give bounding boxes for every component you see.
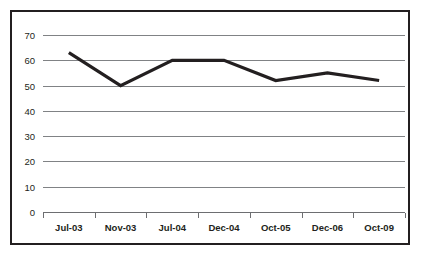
y-axis-tick-label: 20 xyxy=(24,156,35,167)
x-axis-tick-label: Jul-04 xyxy=(159,222,187,233)
x-axis-tick-label: Nov-03 xyxy=(105,222,137,233)
y-axis-tick-label: 30 xyxy=(24,131,35,142)
data-series-line xyxy=(69,53,379,86)
y-axis-tick-label: 40 xyxy=(24,106,35,117)
x-axis-tick-label: Dec-06 xyxy=(312,222,343,233)
x-axis-tick-label: Jul-03 xyxy=(55,222,82,233)
y-axis-tick-label: 10 xyxy=(24,182,35,193)
x-axis-tick-label: Oct-09 xyxy=(364,222,394,233)
y-axis-tick-label: 0 xyxy=(30,207,35,218)
y-axis-tick-label: 70 xyxy=(24,30,35,41)
chart-canvas: 010203040506070Jul-03Nov-03Jul-04Dec-04O… xyxy=(12,12,408,243)
y-axis-tick-label: 60 xyxy=(24,55,35,66)
line-chart: 010203040506070Jul-03Nov-03Jul-04Dec-04O… xyxy=(12,12,408,243)
y-axis-tick-label: 50 xyxy=(24,81,35,92)
chart-frame: 010203040506070Jul-03Nov-03Jul-04Dec-04O… xyxy=(10,10,410,245)
x-axis-tick-label: Oct-05 xyxy=(261,222,291,233)
x-axis-tick-label: Dec-04 xyxy=(208,222,240,233)
